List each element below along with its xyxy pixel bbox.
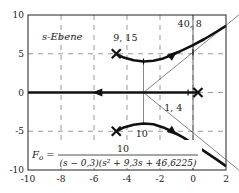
x-tick-label: 0 (190, 174, 196, 184)
gain-annotation: 40, 8 (178, 18, 202, 29)
y-tick-label: 5 (18, 49, 24, 59)
plane-label: s-Ebene (42, 31, 83, 42)
arrow-upper-icon (167, 51, 177, 60)
x-tick-label: -6 (90, 174, 99, 184)
y-tick-label: 10 (13, 10, 25, 20)
x-tick-label: -8 (57, 174, 66, 184)
x-tick-label: -10 (21, 174, 36, 184)
arrow-lower-icon (167, 126, 177, 135)
x-tick-label: -2 (156, 174, 165, 184)
gain-annotation: 10 (136, 128, 148, 139)
tf-denominator: (s − 0,3)(s² + 9,3s + 46,6225) (59, 158, 197, 168)
x-tick-label: 2 (223, 174, 229, 184)
gain-annotation: 9, 15 (113, 32, 137, 43)
y-tick-label: 0 (18, 88, 24, 98)
tf-numerator: 10 (117, 143, 129, 154)
y-tick-label: -10 (10, 165, 25, 175)
x-tick-label: -4 (123, 174, 132, 184)
transfer-function: Fo = 10 (s − 0,3)(s² + 9,3s + 46,6225) (30, 140, 202, 168)
annotations: 9, 1540, 81, 410 (113, 18, 202, 139)
gain-annotation: 1, 4 (164, 102, 182, 113)
root-locus-chart: -10-8-6-4-202-10-50510 9, 1540, 81, 410 … (0, 0, 239, 193)
y-tick-label: -5 (15, 126, 24, 136)
